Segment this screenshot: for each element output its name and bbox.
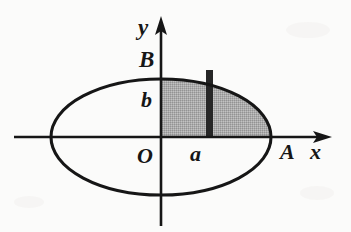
ellipse-diagram [0, 0, 351, 232]
origin-label: O [137, 145, 153, 167]
top-vertex-label: B [139, 48, 154, 71]
right-vertex-label: A [280, 141, 295, 163]
y-axis-label: y [138, 16, 148, 39]
elemental-strip [206, 70, 213, 138]
x-axis-label: x [310, 141, 321, 163]
semi-minor-label: b [141, 89, 152, 111]
semi-major-label: a [190, 143, 201, 165]
figure-canvas: y B b O a A x [0, 0, 351, 232]
